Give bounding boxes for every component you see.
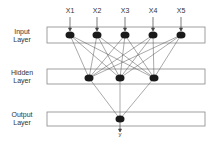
input-node-1 [66, 32, 75, 39]
output-layer-box [47, 112, 205, 126]
input-nodes [66, 32, 186, 39]
input-label-x3: X3 [117, 7, 133, 14]
input-node-5 [177, 32, 186, 39]
output-layer-label-line1: Output [2, 111, 42, 119]
hidden-layer-label-line1: Hidden [2, 69, 42, 77]
input-arrows [69, 17, 183, 31]
edges-input-hidden [70, 35, 181, 78]
input-layer-label-line2: Layer [2, 36, 42, 44]
hidden-layer-label-line2: Layer [2, 77, 42, 85]
input-node-3 [121, 32, 130, 39]
hidden-node-2 [116, 75, 125, 82]
hidden-node-3 [150, 75, 159, 82]
input-label-x5: X5 [173, 7, 189, 14]
hidden-nodes [85, 75, 159, 82]
input-label-x4: X4 [145, 7, 161, 14]
output-layer-label: Output Layer [2, 111, 42, 127]
hidden-node-1 [85, 75, 94, 82]
hidden-layer-box [47, 69, 205, 84]
input-label-x1: X1 [62, 7, 78, 14]
input-layer-label: Input Layer [2, 28, 42, 44]
input-layer-label-line1: Input [2, 28, 42, 36]
output-label-y: y [115, 131, 125, 137]
output-node [116, 116, 125, 123]
input-node-2 [93, 32, 102, 39]
output-layer-label-line2: Layer [2, 119, 42, 127]
hidden-layer-label: Hidden Layer [2, 69, 42, 85]
input-node-4 [149, 32, 158, 39]
input-label-x2: X2 [89, 7, 105, 14]
